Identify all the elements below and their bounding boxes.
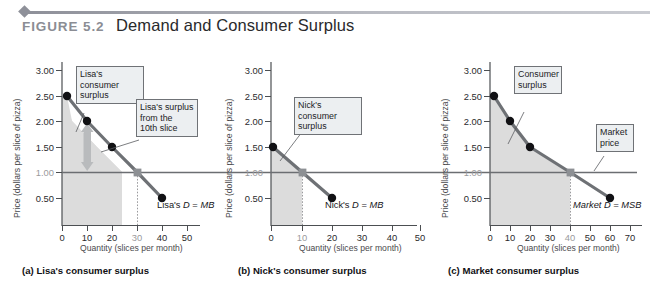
y-axis-label: Price (dollars per slice of pizza) xyxy=(12,99,22,218)
x-tick-40: 40 xyxy=(560,232,580,243)
callout-consumer-surplus: Consumer surplus xyxy=(514,66,562,94)
callout-lisa-consumer-surplus: Lisa's consumer surplus xyxy=(76,66,144,104)
x-tick-0: 0 xyxy=(261,232,281,243)
figure-label: FIGURE 5.2 xyxy=(22,19,105,34)
curve-label-lisa-demand: Lisa's D = MB xyxy=(157,200,214,210)
x-tick-30: 30 xyxy=(352,232,372,243)
y-tick-2-00: 2.00 xyxy=(231,116,263,127)
x-axis-label: Quantity (slices per month) xyxy=(299,243,402,253)
x-tick-0: 0 xyxy=(480,232,500,243)
y-tick-1-00: 1.00 xyxy=(22,167,54,178)
y-tick-0-50: 0.50 xyxy=(450,193,482,204)
x-tick-20: 20 xyxy=(102,232,122,243)
x-axis-label: Quantity (slices per month) xyxy=(517,243,620,253)
y-tick-2-00: 2.00 xyxy=(22,116,54,127)
x-tick-50: 50 xyxy=(580,232,600,243)
y-tick-1-50: 1.50 xyxy=(450,142,482,153)
shaded-area-above-price xyxy=(62,96,122,172)
y-tick-2-50: 2.50 xyxy=(231,91,263,102)
x-tick-50: 50 xyxy=(410,232,430,243)
y-tick-2-50: 2.50 xyxy=(450,91,482,102)
y-tick-1-50: 1.50 xyxy=(22,142,54,153)
y-tick-0-50: 0.50 xyxy=(231,193,263,204)
y-tick-1-00: 1.00 xyxy=(231,167,263,178)
y-tick-2-50: 2.50 xyxy=(22,91,54,102)
x-tick-60: 60 xyxy=(600,232,620,243)
figure-header: FIGURE 5.2 Demand and Consumer Surplus xyxy=(0,0,658,40)
x-axis-label: Quantity (slices per month) xyxy=(80,243,183,253)
x-tick-30: 30 xyxy=(540,232,560,243)
shaded-area-below-price xyxy=(490,172,570,225)
panel-caption-c: (c) Market consumer surplus xyxy=(448,265,579,276)
x-tick-40: 40 xyxy=(382,232,402,243)
y-axis-ticks xyxy=(265,71,271,199)
header-rule xyxy=(26,11,650,14)
callout-lisa-surplus-10th-slice: Lisa's surplus from the 10th slice xyxy=(136,99,198,137)
figure-title: Demand and Consumer Surplus xyxy=(116,16,354,35)
y-tick-1-00: 1.00 xyxy=(450,167,482,178)
callout-market-price: Market price xyxy=(596,124,634,152)
y-tick-3-00: 3.00 xyxy=(231,65,263,76)
y-axis-label: Price (dollars per slice of pizza) xyxy=(440,99,450,218)
x-tick-0: 0 xyxy=(52,232,72,243)
x-tick-20: 20 xyxy=(322,232,342,243)
x-tick-30: 30 xyxy=(127,232,147,243)
x-tick-50: 50 xyxy=(177,232,197,243)
shaded-area-below-price xyxy=(271,172,302,225)
x-tick-10: 10 xyxy=(500,232,520,243)
y-axis-ticks xyxy=(484,71,490,199)
x-tick-10: 10 xyxy=(292,232,312,243)
callout-nick-consumer-surplus: Nick's consumer surplus xyxy=(294,97,362,135)
callout-leader-lines xyxy=(280,132,302,161)
x-tick-20: 20 xyxy=(520,232,540,243)
x-tick-70: 70 xyxy=(620,232,640,243)
y-tick-3-00: 3.00 xyxy=(450,65,482,76)
panel-caption-b: (b) Nick's consumer surplus xyxy=(238,265,367,276)
panel-lisa-consumer-surplus: Price (dollars per slice of pizza) 3.00 … xyxy=(0,40,222,284)
y-tick-1-50: 1.50 xyxy=(231,142,263,153)
shaded-area-below-price xyxy=(62,172,122,225)
panel-market-consumer-surplus: Price (dollars per slice of pizza) 3.00 … xyxy=(432,40,658,284)
panel-nick-consumer-surplus: Price (dollars per slice of pizza) 3.00 … xyxy=(222,40,432,284)
y-tick-0-50: 0.50 xyxy=(22,193,54,204)
y-axis-ticks xyxy=(56,71,62,199)
x-tick-40: 40 xyxy=(152,232,172,243)
curve-label-market-demand: Market D = MSB xyxy=(573,200,641,210)
y-tick-3-00: 3.00 xyxy=(22,65,54,76)
curve-label-nick-demand: Nick's D = MB xyxy=(325,200,383,210)
x-tick-10: 10 xyxy=(77,232,97,243)
y-tick-2-00: 2.00 xyxy=(450,116,482,127)
panel-caption-a: (a) Lisa's consumer surplus xyxy=(22,265,149,276)
